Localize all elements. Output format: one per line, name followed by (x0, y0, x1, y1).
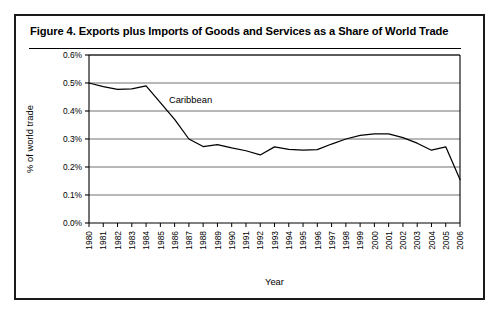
x-axis-tick-label: 1982 (113, 231, 123, 250)
x-axis-tick-label: 1990 (227, 231, 237, 250)
x-axis-tick-label: 1997 (327, 231, 337, 250)
y-axis-tick-label: 0.1% (63, 190, 83, 200)
x-axis-tick-label: 1981 (98, 231, 108, 250)
figure-frame: Figure 4. Exports plus Imports of Goods … (14, 14, 485, 300)
line-chart: 0.0%0.1%0.2%0.3%0.4%0.5%0.6% 19801981198… (16, 50, 483, 300)
figure-title: Figure 4. Exports plus Imports of Goods … (30, 25, 448, 37)
chart-plot-area: 0.0%0.1%0.2%0.3%0.4%0.5%0.6% 19801981198… (16, 50, 483, 300)
y-axis-ticks-group (85, 55, 89, 223)
x-axis-tick-label: 1989 (213, 231, 223, 250)
x-axis-title: Year (265, 276, 284, 287)
x-axis-tick-label: 1994 (284, 231, 294, 250)
y-axis-tick-label: 0.5% (63, 78, 83, 88)
series-line-caribbean (89, 83, 460, 180)
x-axis-tick-label: 1998 (341, 231, 351, 250)
x-axis-tick-label: 1987 (184, 231, 194, 250)
x-axis-tick-label: 2004 (427, 231, 437, 250)
y-axis-tick-label: 0.6% (63, 50, 83, 60)
x-axis-tick-label: 1993 (270, 231, 280, 250)
x-axis-ticks-group (89, 223, 460, 227)
title-underline-rule (29, 48, 461, 49)
x-axis-tick-label: 1980 (84, 231, 94, 250)
x-axis-tick-label: 1992 (255, 231, 265, 250)
y-axis-title: % of world trade (24, 105, 35, 173)
y-axis-tick-labels-group: 0.0%0.1%0.2%0.3%0.4%0.5%0.6% (63, 50, 83, 228)
x-axis-tick-label: 2002 (398, 231, 408, 250)
x-axis-tick-label: 1999 (355, 231, 365, 250)
x-axis-tick-label: 1983 (127, 231, 137, 250)
x-axis-tick-label: 1988 (198, 231, 208, 250)
x-axis-tick-label: 1996 (313, 231, 323, 250)
y-axis-tick-label: 0.3% (63, 134, 83, 144)
x-axis-tick-label: 2005 (441, 231, 451, 250)
series-annotation-caribbean: Caribbean (169, 94, 212, 105)
x-axis-tick-label: 2003 (412, 231, 422, 250)
x-axis-tick-label: 1984 (141, 231, 151, 250)
gridlines-group (89, 55, 460, 195)
y-axis-tick-label: 0.2% (63, 162, 83, 172)
y-axis-tick-label: 0.0% (63, 218, 83, 228)
x-axis-tick-label: 1985 (156, 231, 166, 250)
x-axis-tick-label: 1995 (298, 231, 308, 250)
x-axis-tick-label: 2000 (370, 231, 380, 250)
figure-title-row: Figure 4. Exports plus Imports of Goods … (16, 16, 483, 50)
x-axis-tick-label: 2001 (384, 231, 394, 250)
y-axis-tick-label: 0.4% (63, 106, 83, 116)
x-axis-tick-label: 1991 (241, 231, 251, 250)
x-axis-tick-labels-group: 1980198119821983198419851986198719881989… (84, 231, 465, 250)
x-axis-tick-label: 1986 (170, 231, 180, 250)
x-axis-tick-label: 2006 (455, 231, 465, 250)
